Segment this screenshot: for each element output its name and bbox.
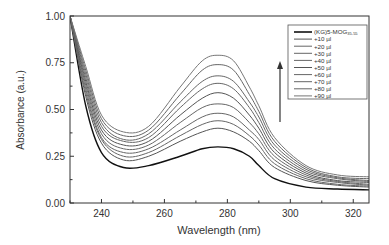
legend-item: +70 µl: [314, 78, 331, 85]
legend-item: +40 µl: [314, 57, 331, 64]
x-tick-label: 260: [156, 208, 173, 219]
x-tick-label: 240: [93, 208, 110, 219]
legend-item: +60 µl: [314, 71, 331, 78]
legend-item: +90 µl: [314, 92, 331, 99]
legend-item: +10 µl: [314, 35, 331, 42]
y-tick-label: 0.25: [46, 151, 66, 162]
y-tick-label: 0.50: [46, 104, 66, 115]
legend-item: +50 µl: [314, 64, 331, 71]
legend-item: +30 µl: [314, 50, 331, 57]
legend-item: +20 µl: [314, 43, 331, 50]
x-axis: 240260280300320: [70, 199, 362, 219]
legend: (KG)5-MOG35-55+10 µl+20 µl+30 µl+40 µl+5…: [288, 25, 367, 99]
x-tick-label: 320: [345, 208, 362, 219]
legend-item: +80 µl: [314, 85, 331, 92]
increase-arrow: [277, 61, 283, 122]
absorbance-chart: 0.000.250.500.751.00 240260280300320 Wav…: [0, 0, 389, 245]
y-tick-label: 1.00: [46, 11, 66, 22]
y-axis-label: Absorbance (a.u.): [15, 70, 26, 150]
x-tick-label: 280: [219, 208, 236, 219]
y-tick-label: 0.75: [46, 57, 66, 68]
x-axis-label: Wavelength (nm): [177, 224, 260, 236]
y-tick-label: 0.00: [46, 198, 66, 209]
x-tick-label: 300: [282, 208, 299, 219]
